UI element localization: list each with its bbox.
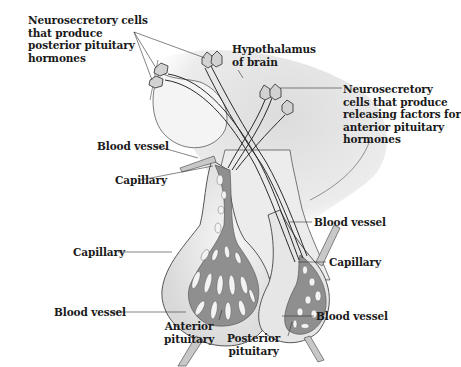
label-blood-vessel-upper-right: Blood vessel xyxy=(314,216,386,229)
label-capillary-right: Capillary xyxy=(329,256,381,269)
label-capillary-left: Capillary xyxy=(73,246,125,259)
label-posterior-pituitary: Posterior pituitary xyxy=(227,332,280,357)
label-blood-vessel-lower-left: Blood vessel xyxy=(54,306,126,319)
label-anterior-pituitary: Anterior pituitary xyxy=(164,320,214,345)
label-capillary-upper-left: Capillary xyxy=(115,174,167,187)
label-hypothalamus: Hypothalamus of brain xyxy=(232,43,316,68)
label-blood-vessel-lower-right: Blood vessel xyxy=(316,310,388,323)
label-blood-vessel-upper-left: Blood vessel xyxy=(97,140,169,153)
label-neurosecretory-anterior: Neurosecretory cells that produce releas… xyxy=(343,83,461,146)
label-neurosecretory-posterior: Neurosecretory cells that produce poster… xyxy=(28,14,148,64)
